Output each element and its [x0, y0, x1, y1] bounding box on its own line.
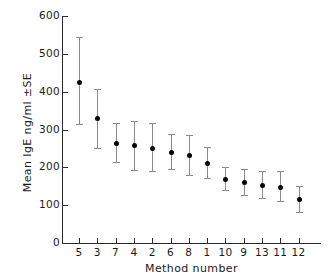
x-axis-tick — [116, 238, 117, 243]
x-axis-tick — [97, 238, 98, 243]
error-bar-cap-lower — [149, 171, 156, 172]
x-axis-title: Method number — [62, 262, 321, 275]
data-point-marker — [187, 153, 192, 158]
data-point-marker — [278, 185, 283, 190]
x-axis-tick — [280, 238, 281, 243]
error-bar-cap-upper — [94, 89, 101, 90]
error-bar-cap-upper — [149, 123, 156, 124]
plot-area: 6005004003002001000 53742681109131112 Me… — [0, 0, 333, 280]
chart-container: 6005004003002001000 53742681109131112 Me… — [0, 0, 333, 280]
error-bar-cap-lower — [94, 148, 101, 149]
data-point-marker — [205, 161, 210, 166]
x-axis-tick — [225, 238, 226, 243]
y-axis-tick — [63, 205, 68, 206]
error-bar-cap-lower — [222, 190, 229, 191]
error-bar-cap-lower — [186, 175, 193, 176]
data-point-marker — [169, 150, 174, 155]
data-point-marker — [95, 116, 100, 121]
data-point-marker — [77, 80, 82, 85]
x-axis-tick — [207, 238, 208, 243]
x-axis-tick — [299, 238, 300, 243]
y-axis-tick — [63, 167, 68, 168]
error-bar-cap-lower — [296, 212, 303, 213]
error-bar-cap-lower — [113, 162, 120, 163]
error-bar-cap-upper — [277, 171, 284, 172]
error-bar-cap-lower — [277, 201, 284, 202]
error-bar-cap-upper — [113, 123, 120, 124]
y-axis-tick — [63, 16, 68, 17]
error-bar-cap-upper — [168, 134, 175, 135]
data-point-marker — [114, 141, 119, 146]
error-bar-cap-upper — [222, 167, 229, 168]
error-bar-cap-upper — [186, 135, 193, 136]
y-axis-tick — [63, 243, 68, 244]
error-bar-cap-upper — [259, 171, 266, 172]
error-bar-cap-upper — [296, 186, 303, 187]
y-axis-tick-label: 600 — [20, 9, 60, 21]
data-point-marker — [132, 143, 137, 148]
x-axis-tick-label: 12 — [287, 246, 311, 258]
x-axis-tick — [79, 238, 80, 243]
error-bar-cap-lower — [241, 195, 248, 196]
error-bar-cap-lower — [204, 178, 211, 179]
x-axis-tick — [152, 238, 153, 243]
y-axis-tick — [63, 92, 68, 93]
x-axis-line — [62, 243, 321, 244]
error-bar-cap-upper — [76, 37, 83, 38]
y-axis-tick-label: 0 — [20, 236, 60, 248]
error-bar-cap-upper — [241, 169, 248, 170]
error-bar-cap-lower — [131, 170, 138, 171]
y-axis-tick — [63, 130, 68, 131]
y-axis-tick — [63, 54, 68, 55]
data-point-marker — [150, 146, 155, 151]
error-bar-cap-upper — [131, 121, 138, 122]
error-bar-cap-upper — [204, 147, 211, 148]
x-axis-tick — [134, 238, 135, 243]
x-axis-tick — [244, 238, 245, 243]
x-axis-tick — [171, 238, 172, 243]
error-bar-cap-lower — [259, 198, 266, 199]
error-bar-cap-lower — [168, 169, 175, 170]
data-point-marker — [260, 183, 265, 188]
data-point-marker — [223, 177, 228, 182]
y-axis-title: Mean IgE ng/ml ±SE — [21, 38, 34, 228]
data-point-marker — [297, 197, 302, 202]
data-point-marker — [242, 180, 247, 185]
error-bar-cap-lower — [76, 124, 83, 125]
x-axis-tick — [262, 238, 263, 243]
x-axis-tick — [189, 238, 190, 243]
